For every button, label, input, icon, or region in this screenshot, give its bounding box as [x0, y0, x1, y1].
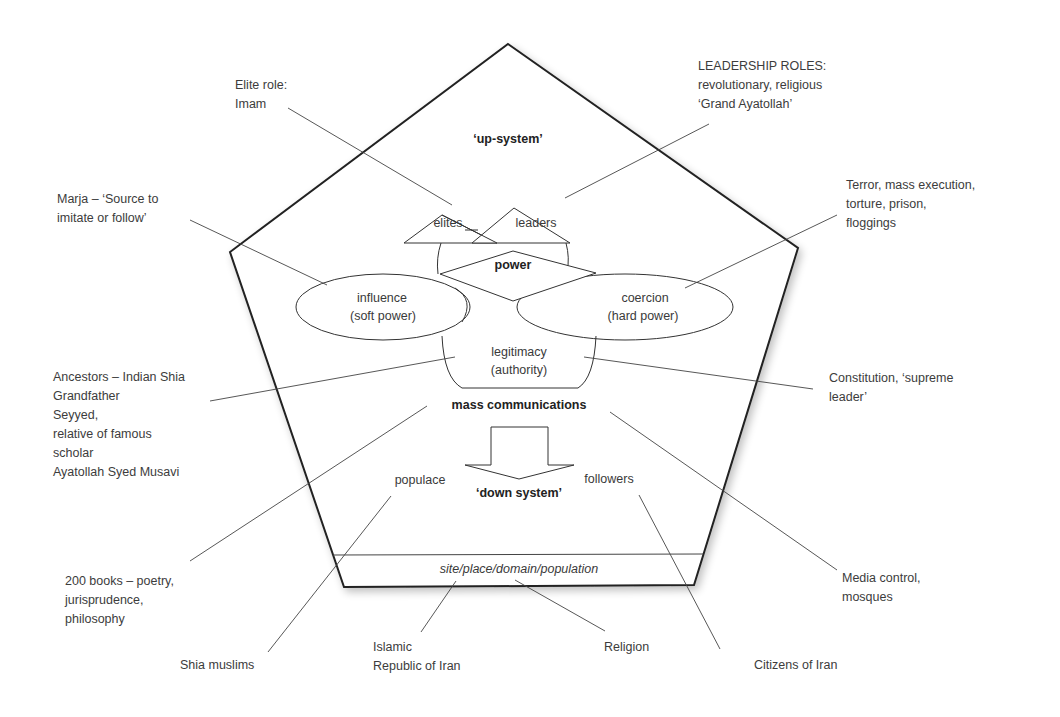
- legitimacy-label: legitimacy: [491, 345, 547, 359]
- site-label: site/place/domain/population: [440, 562, 598, 576]
- annotation-religion: Religion: [604, 638, 649, 657]
- authority-label: (authority): [491, 363, 547, 377]
- elites-label: elites: [433, 216, 462, 230]
- populace-label: populace: [395, 473, 446, 487]
- mass-communications-label: mass communications: [452, 398, 587, 412]
- followers-label: followers: [584, 472, 633, 486]
- annotation-ancestors: Ancestors – Indian Shia Grandfather Seyy…: [53, 368, 185, 482]
- annotation-citizens: Citizens of Iran: [754, 656, 837, 675]
- coercion-label: coercion: [621, 291, 668, 305]
- down-system-label: ‘down system’: [476, 486, 562, 500]
- annotation-constitution: Constitution, ‘supreme leader’: [829, 369, 953, 407]
- power-label: power: [495, 258, 532, 272]
- soft-power-label: (soft power): [350, 309, 416, 323]
- annotation-islamic-republic: Islamic Republic of Iran: [373, 638, 461, 676]
- annotation-terror: Terror, mass execution, torture, prison,…: [846, 176, 975, 233]
- influence-ellipse: [296, 274, 470, 340]
- annotation-books: 200 books – poetry, jurisprudence, philo…: [65, 572, 174, 629]
- annotation-leadership-roles: LEADERSHIP ROLES: revolutionary, religio…: [698, 57, 826, 114]
- annotation-elite-role: Elite role: Imam: [235, 76, 287, 114]
- up-system-label: ‘up-system’: [473, 132, 542, 146]
- annotation-shia-muslims: Shia muslims: [180, 656, 254, 675]
- annotation-media: Media control, mosques: [842, 569, 921, 607]
- influence-label: influence: [357, 291, 407, 305]
- legitimacy-box: [442, 336, 596, 388]
- annotation-marja: Marja – ‘Source to imitate or follow’: [57, 190, 158, 228]
- leaders-label: leaders: [516, 216, 557, 230]
- hard-power-label: (hard power): [608, 309, 679, 323]
